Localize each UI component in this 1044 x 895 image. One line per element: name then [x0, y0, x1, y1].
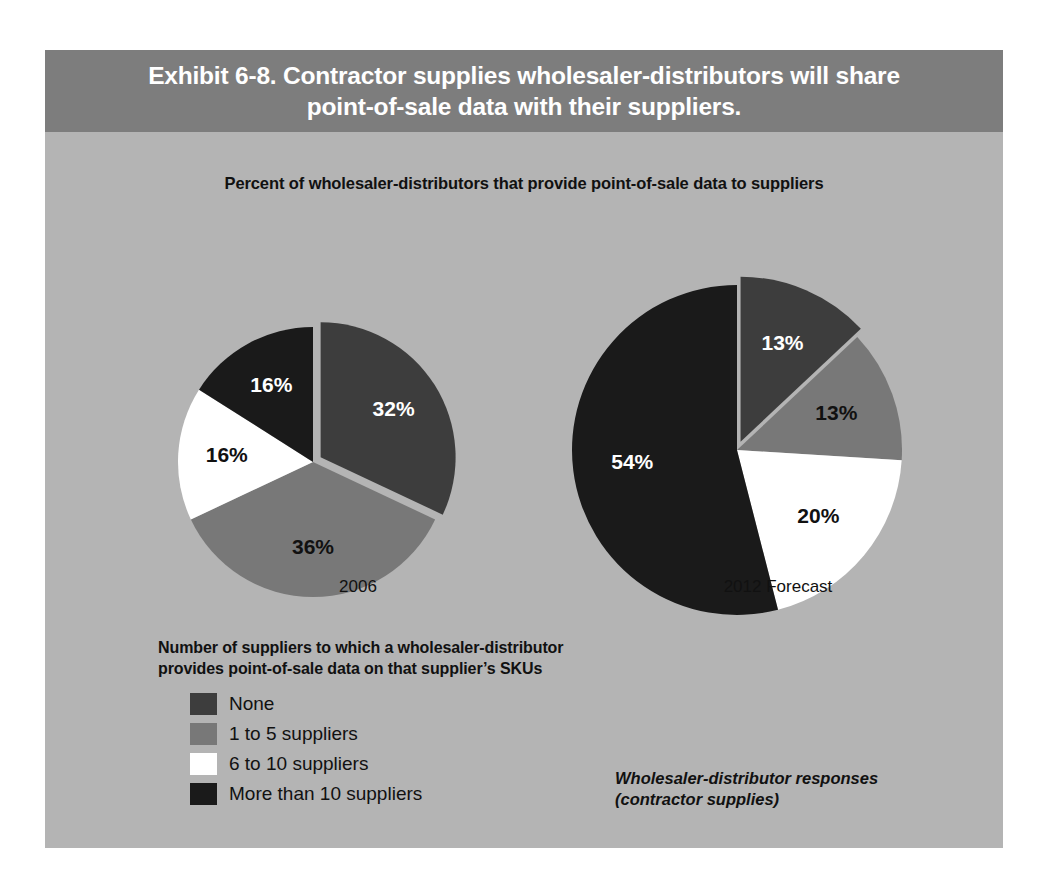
legend-item: 1 to 5 suppliers	[190, 719, 628, 749]
source-note: Wholesaler-distributor responses (contra…	[615, 768, 878, 810]
legend-items: None1 to 5 suppliers6 to 10 suppliersMor…	[158, 689, 628, 809]
pie-chart-right: 13%13%20%54%	[572, 277, 902, 615]
legend-item-label: 6 to 10 suppliers	[229, 754, 368, 773]
legend-swatch	[190, 783, 217, 805]
exhibit-header-bar: Exhibit 6-8. Contractor supplies wholesa…	[45, 50, 1003, 132]
pie-slice-label: 32%	[373, 397, 415, 420]
pie-slice-label: 16%	[206, 443, 248, 466]
pie-slice-label: 54%	[611, 450, 653, 473]
pie-slice-label: 13%	[761, 331, 803, 354]
pie-slice-label: 16%	[250, 373, 292, 396]
exhibit-panel: Exhibit 6-8. Contractor supplies wholesa…	[45, 50, 1003, 848]
pie-slice-label: 20%	[797, 504, 839, 527]
chart-subtitle: Percent of wholesaler-distributors that …	[45, 174, 1003, 193]
pie-chart-left: 32%36%16%16%	[178, 322, 456, 597]
legend-item: 6 to 10 suppliers	[190, 749, 628, 779]
legend-swatch	[190, 753, 217, 775]
legend-item: More than 10 suppliers	[190, 779, 628, 809]
pie-caption-2006: 2006	[223, 577, 493, 597]
legend-item-label: More than 10 suppliers	[229, 784, 422, 803]
pie-caption-2012-forecast: 2012 Forecast	[643, 577, 913, 597]
pie-slice-label: 13%	[815, 401, 857, 424]
legend-item-label: None	[229, 694, 274, 713]
exhibit-title: Exhibit 6-8. Contractor supplies wholesa…	[120, 60, 928, 123]
legend-swatch	[190, 693, 217, 715]
legend-heading: Number of suppliers to which a wholesale…	[158, 638, 628, 680]
legend-swatch	[190, 723, 217, 745]
pie-slice-label: 36%	[292, 535, 334, 558]
pie-charts-group: 32%36%16%16%13%13%20%54%	[45, 230, 1003, 590]
legend: Number of suppliers to which a wholesale…	[158, 638, 628, 809]
legend-item-label: 1 to 5 suppliers	[229, 724, 358, 743]
legend-item: None	[190, 689, 628, 719]
